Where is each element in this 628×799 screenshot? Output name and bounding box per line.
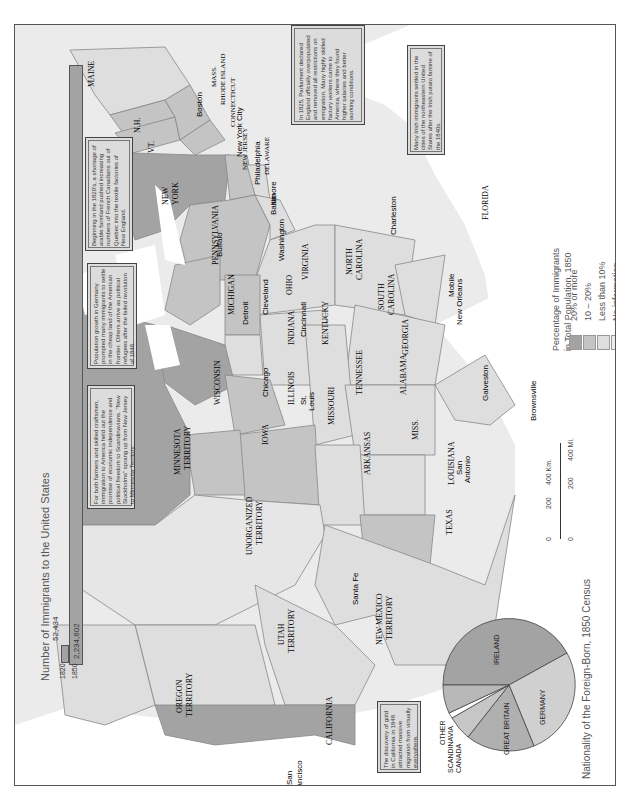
label-unorg-2: TERRITORY [255,501,264,545]
city-cincinnati: Cincinnati [299,302,308,337]
city-sf-1: San [285,771,294,785]
city-st-louis-2: Louis [307,392,316,411]
label-nc-1: NORTH [345,248,354,275]
city-buffalo: Buffalo [215,232,224,257]
state-utah-territory [135,625,275,715]
state-iowa [185,430,245,495]
label-in: INDIANA [287,311,296,345]
annotation-california: The discovery of gold in California in 1… [377,701,421,773]
label-ky: KENTUCKY [321,301,330,345]
city-brownsville: Brownsville [529,381,538,421]
scale-km-0: 0 [545,537,552,541]
label-il: ILLINOIS [287,371,296,405]
legend-label-less10: Less than 10% [597,261,607,321]
bar-label-1820: 1820 [59,663,66,679]
pie-label-great-britain: GREAT BRITAIN [503,702,511,755]
label-ca: CALIFORNIA [325,697,334,745]
scale-mi-0: 0 [567,537,574,541]
scale-km-400: 400 Km. [545,459,552,485]
label-sc-1: SOUTH [377,283,386,310]
scale-bar [560,443,561,539]
label-ny-2: YORK [171,182,180,205]
label-ri: RHODE ISLAND [219,53,227,105]
label-al: ALABAMA [399,355,408,395]
city-detroit: Detroit [241,301,250,325]
label-mn-2: TERRITORY [183,426,192,470]
map-frame: MAINE N.H. VT. MASS. RHODE ISLAND CONNEC… [14,24,616,786]
annotation-scandinavia: For both farmers and skilled craftsmen, … [87,385,135,509]
label-oh: OHIO [285,275,294,295]
state-alabama [345,385,435,455]
legend-label-20plus: 20% or more [569,269,579,321]
label-ar: ARKANSAS [363,432,372,475]
label-ny-1: NEW [161,187,170,205]
city-philadelphia: Philadelphia [253,141,262,185]
label-mass: MASS. [210,66,218,87]
city-santa-fe: Santa Fe [351,573,360,605]
city-san-antonio-2: Antonio [463,456,472,483]
label-nh: N.H. [133,117,142,133]
city-cleveland: Cleveland [261,279,270,315]
city-new-york: New York City [235,107,244,157]
legend-title-1: Percentage of Immigrants [551,248,562,351]
label-tx: TEXAS [445,509,454,535]
legend-swatch-20plus [569,335,582,350]
label-sc-2: CAROLINA [387,274,396,315]
label-maine: MAINE [87,61,96,87]
bar-label-1850: 1850 [71,663,78,679]
label-utah-2: TERRITORY [287,609,296,653]
city-baltimore: Baltimore [269,181,278,215]
bar-chart-title: Number of Immigrants to the United State… [39,473,51,681]
state-missouri [235,425,320,505]
label-nm-1: NEW MEXICO [375,593,384,645]
city-boston: Boston [195,92,204,117]
annotation-ireland: Many Irish immigrants settled in the cit… [407,45,445,155]
label-tn: TENNESSEE [355,350,364,395]
city-galveston: Galveston [481,365,490,401]
label-mn-1: MINNESOTA [173,429,182,475]
label-or-2: TERRITORY [185,673,194,717]
label-va: VIRGINIA [301,244,310,280]
label-wi: WISCONSIN [213,361,222,405]
annotation-england: In 1825, Parliament declared England off… [291,25,365,125]
label-unorg-1: UNORGANIZED [245,497,254,555]
label-fl: FLORIDA [481,185,490,220]
bar-1850 [69,65,83,665]
label-mo: MISSOURI [327,387,336,425]
pie-label-scandinavia: SCANDINAVIA [447,726,454,773]
scale-mi-400: 400 Mi. [567,438,574,461]
legend-label-10-20: 10 – 20% [583,283,593,321]
city-sf-2: Francisco [295,760,304,786]
legend-swatch-noinfo [611,335,616,350]
pie-label-canada: CANADA [455,744,462,773]
pie-label-germany: GERMANY [539,690,546,725]
pie-label-ireland: IRELAND [493,635,500,665]
annotation-germany: Population growth in Germany prompted ma… [87,263,137,369]
label-mi: MICHIGAN [227,274,236,315]
label-utah-1: UTAH [277,623,286,645]
bar-value-1820: 52,434 [51,617,60,641]
label-ms: MISS. [411,419,420,440]
city-new-orleans: New Orleans [455,279,464,325]
label-nm-2: TERRITORY [385,596,394,640]
state-arkansas [315,445,365,525]
scale-km-200: 200 [545,497,552,509]
city-chicago: Chicago [261,368,270,397]
city-washington: Washington [277,219,286,261]
label-or-1: OREGON [175,680,184,713]
scale-mi-200: 200 [567,477,574,489]
city-charleston: Charleston [389,196,398,235]
label-ga: GEORGIA [401,319,410,355]
annotation-quebec: Beginning in the 1820's, a shortage of a… [85,137,133,251]
legend-label-noinfo: No information [611,262,616,321]
pie-chart-title: Nationality of the Foreign-Born, 1850 Ce… [581,579,592,779]
bar-value-1850: 2,234,602 [72,623,81,659]
label-vt: VT. [147,141,156,153]
legend-swatch-10-20 [583,335,596,350]
pie-label-other: OTHER [439,721,446,746]
label-de: DELAWARE [263,137,271,175]
label-ia: IOWA [261,424,270,445]
legend-swatch-less10 [597,335,610,350]
label-nc-2: CAROLINA [355,239,364,280]
bar-1820 [61,645,69,663]
